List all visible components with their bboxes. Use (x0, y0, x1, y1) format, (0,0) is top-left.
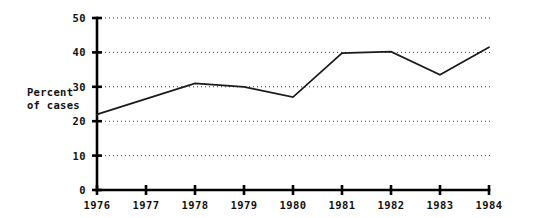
x-tick-label-1980: 1980 (280, 199, 307, 211)
y-tick-label-30: 30 (73, 81, 86, 93)
x-tick-label-1984: 1984 (476, 199, 503, 211)
x-tick-labels: 197619771978197919801981198219831984 (84, 199, 503, 211)
y-tick-label-40: 40 (73, 46, 86, 58)
x-tick-label-1978: 1978 (182, 199, 209, 211)
line-chart: 01020304050 1976197719781979198019811982… (0, 0, 538, 218)
y-tick-label-20: 20 (73, 115, 86, 127)
x-tick-label-1983: 1983 (427, 199, 454, 211)
x-tick-label-1982: 1982 (378, 199, 405, 211)
chart-canvas: 01020304050 1976197719781979198019811982… (0, 0, 538, 218)
y-axis-label-line-1: Percent (27, 86, 73, 98)
y-axis-label-line-2: of cases (27, 99, 80, 111)
x-tick-label-1981: 1981 (329, 199, 356, 211)
y-tick-label-0: 0 (79, 184, 86, 196)
y-tick-label-10: 10 (73, 150, 86, 162)
x-tick-label-1979: 1979 (231, 199, 258, 211)
x-tick-label-1977: 1977 (133, 199, 160, 211)
y-axis-label: Percent of cases (27, 86, 80, 111)
y-tick-label-50: 50 (73, 12, 86, 24)
x-tick-label-1976: 1976 (84, 199, 111, 211)
